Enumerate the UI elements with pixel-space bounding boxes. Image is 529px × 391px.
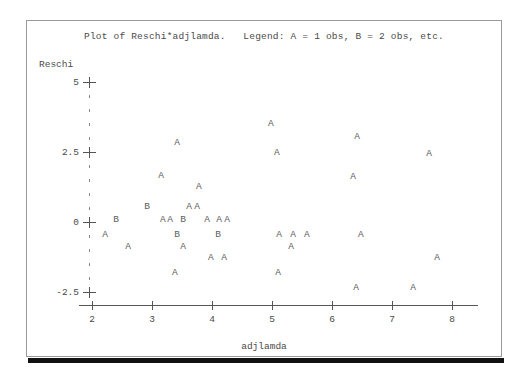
x-axis-tick bbox=[212, 301, 213, 310]
data-point-marker: A bbox=[410, 283, 416, 293]
x-axis-tick bbox=[392, 301, 393, 310]
data-point-marker: A bbox=[434, 254, 440, 264]
data-point-marker: A bbox=[221, 254, 227, 264]
y-axis-minor-tick bbox=[89, 95, 90, 98]
data-point-marker: A bbox=[350, 172, 356, 182]
y-axis-minor-tick bbox=[89, 263, 90, 266]
data-point-marker: A bbox=[274, 148, 280, 158]
data-point-marker: A bbox=[275, 268, 281, 278]
y-axis-minor-tick bbox=[89, 193, 90, 196]
y-axis-tick-label: 5 bbox=[31, 77, 79, 88]
data-point-marker: A bbox=[180, 242, 186, 252]
data-point-marker: B bbox=[113, 216, 119, 226]
data-point-marker: A bbox=[125, 242, 131, 252]
data-point-marker: A bbox=[174, 138, 180, 148]
data-point-marker: A bbox=[290, 231, 296, 241]
x-axis-tick-label: 8 bbox=[432, 314, 472, 325]
data-point-marker: A bbox=[167, 216, 173, 226]
y-axis-minor-tick bbox=[89, 109, 90, 112]
y-axis-minor-tick bbox=[89, 123, 90, 126]
data-point-marker: A bbox=[426, 149, 432, 159]
data-point-marker: A bbox=[158, 171, 164, 181]
data-point-marker: B bbox=[180, 216, 186, 226]
data-point-marker: A bbox=[304, 231, 310, 241]
y-axis-minor-tick bbox=[89, 277, 90, 280]
x-axis-line bbox=[79, 305, 478, 306]
x-axis-tick-label: 2 bbox=[72, 314, 112, 325]
data-point-marker: A bbox=[204, 216, 210, 226]
x-axis-tick bbox=[92, 301, 93, 310]
x-axis-tick-label: 7 bbox=[372, 314, 412, 325]
data-point-marker: A bbox=[268, 119, 274, 129]
y-axis-tick-stem bbox=[89, 287, 90, 298]
data-point-marker: B bbox=[174, 231, 180, 241]
x-axis-tick-label: 4 bbox=[192, 314, 232, 325]
data-point-marker: A bbox=[194, 202, 200, 212]
x-axis-tick-label: 6 bbox=[312, 314, 352, 325]
data-point-marker: A bbox=[288, 242, 294, 252]
data-point-marker: B bbox=[215, 231, 221, 241]
data-point-marker: A bbox=[160, 216, 166, 226]
data-point-marker: A bbox=[186, 202, 192, 212]
plot-frame: Plot of Reschi*adjlamda. Legend: A = 1 o… bbox=[26, 20, 502, 357]
data-point-marker: A bbox=[102, 231, 108, 241]
page-edge-shadow bbox=[28, 358, 504, 363]
data-point-marker: B bbox=[144, 202, 150, 212]
y-axis-minor-tick bbox=[89, 165, 90, 168]
data-point-marker: A bbox=[208, 254, 214, 264]
y-axis-tick-stem bbox=[89, 217, 90, 228]
y-axis-tick-label: 2.5 bbox=[31, 147, 79, 158]
y-axis-minor-tick bbox=[89, 137, 90, 140]
data-point-marker: A bbox=[354, 132, 360, 142]
data-point-marker: A bbox=[216, 216, 222, 226]
plot-canvas: 234567852.50-2.5AAAAAAAABAABAABAAAABBAAA… bbox=[27, 21, 503, 358]
data-point-marker: A bbox=[172, 268, 178, 278]
x-axis-tick bbox=[152, 301, 153, 310]
data-point-marker: A bbox=[224, 216, 230, 226]
y-axis-tick-label: 0 bbox=[31, 217, 79, 228]
x-axis-tick-label: 3 bbox=[132, 314, 172, 325]
data-point-marker: A bbox=[276, 231, 282, 241]
y-axis-minor-tick bbox=[89, 207, 90, 210]
data-point-marker: A bbox=[196, 182, 202, 192]
x-axis-tick bbox=[272, 301, 273, 310]
data-point-marker: A bbox=[358, 231, 364, 241]
data-point-marker: A bbox=[353, 283, 359, 293]
y-axis-minor-tick bbox=[89, 249, 90, 252]
x-axis-tick-label: 5 bbox=[252, 314, 292, 325]
x-axis-tick bbox=[452, 301, 453, 310]
y-axis-tick-label: -2.5 bbox=[31, 287, 79, 298]
y-axis-minor-tick bbox=[89, 179, 90, 182]
y-axis-minor-tick bbox=[89, 235, 90, 238]
y-axis-tick-stem bbox=[89, 147, 90, 158]
y-axis-tick-stem bbox=[89, 77, 90, 88]
x-axis-tick bbox=[332, 301, 333, 310]
